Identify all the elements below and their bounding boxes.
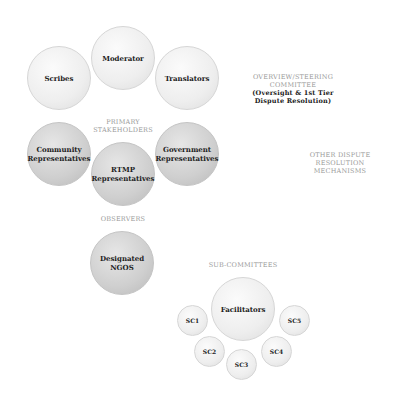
label-line: Representatives bbox=[28, 154, 91, 163]
primary-stakeholders-label: PRIMARY STAKEHOLDERS bbox=[83, 118, 163, 134]
node-label: Government Representatives bbox=[156, 145, 219, 163]
observers-label: OBSERVERS bbox=[83, 215, 163, 223]
label-line: Government bbox=[163, 145, 211, 154]
heading-line: OVERVIEW/STEERING bbox=[243, 73, 343, 81]
node-label: Facilitators bbox=[221, 305, 266, 314]
node-facilitators: Facilitators bbox=[211, 277, 275, 341]
label-line: Representatives bbox=[156, 154, 219, 163]
label-line: OTHER DISPUTE bbox=[300, 151, 380, 159]
node-scribes: Scribes bbox=[27, 46, 91, 110]
node-sc4: SC4 bbox=[261, 336, 292, 367]
other-dispute-label: OTHER DISPUTE RESOLUTION MECHANISMS bbox=[300, 151, 380, 175]
heading-line: OBSERVERS bbox=[83, 215, 163, 223]
label-line: NGOS bbox=[110, 263, 134, 272]
label-line: RESOLUTION bbox=[300, 159, 380, 167]
heading-line: SUB-COMMITTEES bbox=[203, 261, 283, 269]
node-label: SC2 bbox=[203, 348, 216, 355]
node-sc3: SC3 bbox=[226, 349, 257, 380]
subheading-line: Dispute Resolution) bbox=[243, 97, 343, 105]
node-designated-ngos: Designated NGOS bbox=[90, 231, 154, 295]
heading-line: COMMITTEE bbox=[243, 81, 343, 89]
label-line: Community bbox=[36, 145, 81, 154]
label-line: MECHANISMS bbox=[300, 167, 380, 175]
heading-line: PRIMARY bbox=[83, 118, 163, 126]
label-line: Representatives bbox=[92, 174, 155, 183]
node-label: Translators bbox=[165, 74, 210, 83]
sub-committees-label: SUB-COMMITTEES bbox=[203, 261, 283, 269]
node-label: Community Representatives bbox=[28, 145, 91, 163]
label-line: Designated bbox=[100, 254, 144, 263]
node-label: SC5 bbox=[288, 317, 301, 324]
node-label: SC3 bbox=[235, 361, 248, 368]
node-translators: Translators bbox=[155, 46, 219, 110]
node-label: SC1 bbox=[186, 317, 199, 324]
node-sc2: SC2 bbox=[194, 336, 225, 367]
node-label: RTMP Representatives bbox=[92, 165, 155, 183]
node-government-representatives: Government Representatives bbox=[155, 122, 219, 186]
label-line: RTMP bbox=[111, 165, 135, 174]
node-sc1: SC1 bbox=[177, 305, 208, 336]
node-community-representatives: Community Representatives bbox=[27, 122, 91, 186]
node-sc5: SC5 bbox=[279, 305, 310, 336]
node-moderator: Moderator bbox=[91, 26, 155, 90]
node-rtmp-representatives: RTMP Representatives bbox=[91, 142, 155, 206]
node-label: Designated NGOS bbox=[100, 254, 144, 272]
node-label: SC4 bbox=[270, 348, 283, 355]
overview-committee-label: OVERVIEW/STEERING COMMITTEE (Oversight &… bbox=[243, 73, 343, 105]
heading-line: STAKEHOLDERS bbox=[83, 126, 163, 134]
node-label: Scribes bbox=[45, 74, 74, 83]
subheading-line: (Oversight & 1st Tier bbox=[243, 89, 343, 97]
node-label: Moderator bbox=[102, 54, 144, 63]
